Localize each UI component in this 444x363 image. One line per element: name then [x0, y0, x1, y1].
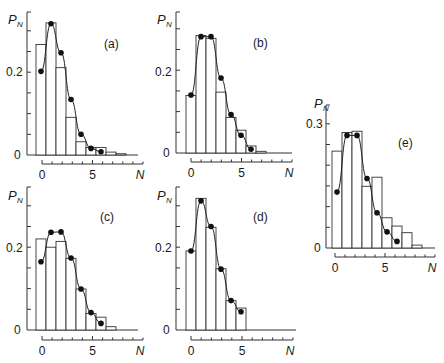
- panel-tag: (b): [253, 36, 268, 50]
- x-tick-label-5: 5: [238, 166, 245, 180]
- histogram-bar: [116, 154, 126, 155]
- y-tick-label: 0.2: [6, 241, 23, 255]
- histogram-bar: [66, 258, 76, 330]
- y-axis-label-subscript: N: [17, 196, 23, 205]
- y-tick-label: 0.2: [155, 241, 172, 255]
- panel-b: 05N00.2PN(b): [155, 12, 294, 180]
- data-point: [198, 198, 204, 204]
- histogram-bar: [76, 142, 86, 155]
- panel-tag: (a): [104, 37, 119, 51]
- y-tick-label: 0: [14, 148, 21, 162]
- histogram-bar: [206, 227, 216, 330]
- data-point: [354, 133, 360, 139]
- x-tick-label-0: 0: [332, 261, 339, 275]
- data-point: [198, 34, 204, 40]
- panel-e: 05N00.3PN(e): [306, 96, 437, 275]
- y-axis-label: P: [157, 188, 166, 203]
- data-point: [58, 50, 64, 56]
- data-point: [208, 224, 214, 230]
- data-point: [68, 255, 74, 261]
- y-tick-label: 0: [314, 241, 321, 255]
- y-tick-label: 0: [14, 323, 21, 337]
- histogram-bar: [186, 95, 196, 153]
- data-point: [208, 34, 214, 40]
- histogram-bar: [56, 241, 66, 330]
- x-tick-label-0: 0: [188, 344, 195, 358]
- histogram-bar: [412, 245, 422, 248]
- histogram-bar: [392, 226, 402, 248]
- x-axis-label: N: [285, 166, 294, 180]
- y-tick-label: 0.2: [155, 65, 172, 79]
- histogram-bar: [46, 23, 56, 155]
- data-point: [188, 92, 194, 98]
- y-axis-label: P: [8, 12, 17, 27]
- data-point: [394, 239, 400, 245]
- data-point: [78, 132, 84, 138]
- data-point: [78, 286, 84, 292]
- histogram-bar: [66, 117, 76, 155]
- x-tick-label-5: 5: [239, 344, 246, 358]
- histogram-bar: [196, 198, 206, 330]
- data-point: [48, 229, 54, 235]
- histogram-bar: [206, 38, 216, 153]
- data-point: [218, 75, 224, 81]
- panel-tag: (c): [100, 210, 114, 224]
- data-point: [248, 146, 254, 152]
- data-point: [58, 229, 64, 235]
- y-tick-label: 0: [163, 323, 170, 337]
- histogram-figure: 05N00.2PN(a)05N00.2PN(b)05N00.2PN(c)05N0…: [0, 0, 444, 363]
- x-axis-label: N: [136, 344, 145, 358]
- x-axis-label: N: [286, 344, 295, 358]
- data-point: [228, 112, 234, 118]
- x-tick-label-5: 5: [89, 344, 96, 358]
- data-point: [38, 259, 44, 265]
- data-point: [188, 248, 194, 254]
- x-axis-label: N: [136, 168, 145, 182]
- histogram-bar: [256, 151, 266, 153]
- panel-tag: (e): [398, 136, 413, 150]
- y-tick-label: 0: [163, 146, 170, 160]
- y-axis-label-subscript: N: [166, 20, 172, 29]
- data-point: [334, 189, 340, 195]
- data-point: [88, 310, 94, 316]
- x-tick-label-0: 0: [39, 344, 46, 358]
- y-tick-label: 0.2: [6, 65, 23, 79]
- x-tick-label-5: 5: [89, 168, 96, 182]
- data-point: [98, 149, 104, 155]
- data-point: [384, 229, 390, 235]
- x-tick-label-0: 0: [39, 168, 46, 182]
- data-point: [374, 210, 380, 216]
- histogram-bar: [216, 92, 226, 153]
- y-axis-label: P: [314, 96, 323, 111]
- histogram-bar: [362, 186, 372, 248]
- data-point: [98, 321, 104, 327]
- histogram-bar: [106, 327, 116, 330]
- histogram-bar: [186, 251, 196, 330]
- histogram-bar: [332, 151, 342, 248]
- y-axis-label-subscript: N: [17, 20, 23, 29]
- y-axis-label: P: [8, 188, 17, 203]
- x-axis-label: N: [428, 261, 437, 275]
- histogram-bar: [106, 152, 116, 155]
- histogram-bar: [226, 117, 236, 153]
- data-point: [38, 69, 44, 75]
- y-tick-label: 0.3: [306, 117, 323, 131]
- y-axis-label-subscript: N: [166, 196, 172, 205]
- histogram-bar: [226, 301, 236, 330]
- data-point: [218, 266, 224, 272]
- panel-c: 05N00.2PN(c): [6, 187, 145, 358]
- data-point: [364, 176, 370, 182]
- data-point: [238, 132, 244, 138]
- histogram-bar: [402, 233, 412, 248]
- data-point: [48, 21, 54, 27]
- histogram-bar: [56, 68, 66, 155]
- panel-d: 05N00.2PN(d): [155, 187, 296, 358]
- panel-tag: (d): [253, 210, 268, 224]
- data-point: [228, 298, 234, 304]
- histogram-bar: [46, 247, 56, 330]
- panel-a: 05N00.2PN(a): [6, 12, 145, 182]
- data-point: [344, 133, 350, 139]
- data-point: [68, 97, 74, 103]
- y-axis-label-subscript: N: [323, 104, 329, 113]
- x-tick-label-0: 0: [188, 166, 195, 180]
